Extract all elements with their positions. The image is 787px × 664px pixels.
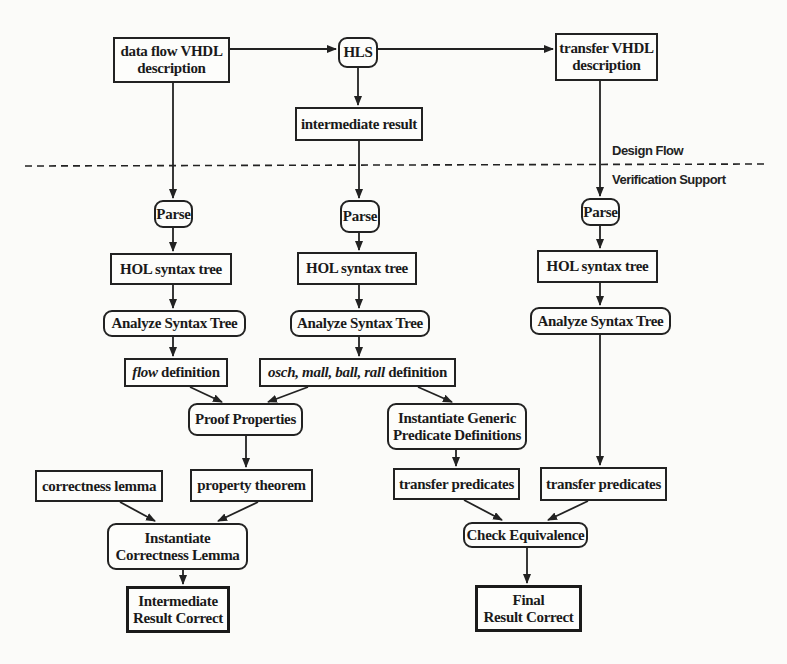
node-label: Analyze Syntax Tree: [112, 315, 238, 332]
intermediate-result-correct-node: IntermediateResult Correct: [126, 586, 230, 633]
node-label: Result Correct: [483, 609, 573, 626]
node-label: intermediate result: [301, 116, 417, 133]
node-label: Parse: [156, 206, 190, 223]
node-label-italic: osch, mall, ball, rall: [268, 364, 385, 380]
analyze-syntax-tree-mid-node: Analyze Syntax Tree: [290, 310, 430, 337]
node-label: definition: [158, 364, 220, 380]
node-label: HOL syntax tree: [306, 260, 408, 277]
node-label: Instantiate Generic: [398, 410, 516, 427]
node-label: Predicate Definitions: [393, 427, 521, 444]
node-label: Proof Properties: [195, 411, 296, 428]
node-label: Instantiate: [145, 530, 211, 547]
flow-definition-node: flow definition: [124, 358, 228, 387]
verification-support-label: Verification Support: [612, 172, 726, 187]
node-label: definition: [385, 364, 447, 380]
property-theorem-node: property theorem: [190, 469, 313, 502]
node-label: HOL syntax tree: [547, 258, 649, 275]
node-label: transfer predicates: [546, 476, 661, 493]
node-label: data flow VHDL: [120, 43, 222, 60]
node-label: Analyze Syntax Tree: [538, 313, 664, 330]
analyze-syntax-tree-left-node: Analyze Syntax Tree: [103, 310, 246, 337]
instantiate-generic-predicate-node: Instantiate GenericPredicate Definitions: [387, 403, 527, 450]
hol-syntax-tree-left-node: HOL syntax tree: [110, 253, 232, 285]
correctness-lemma-node: correctness lemma: [35, 470, 163, 502]
instantiate-correctness-lemma-node: InstantiateCorrectness Lemma: [107, 523, 248, 570]
design-flow-label: Design Flow: [612, 143, 683, 158]
node-label: Parse: [583, 204, 617, 221]
osch-mall-ball-rall-definition-node: osch, mall, ball, rall definition: [259, 358, 456, 387]
node-label: property theorem: [197, 477, 305, 494]
parse-right-node: Parse: [581, 198, 620, 226]
verification-flow-diagram: Design Flow Verification Support data fl…: [0, 0, 787, 664]
node-label: Correctness Lemma: [115, 547, 239, 564]
check-equivalence-node: Check Equivalence: [463, 522, 588, 548]
node-label: Check Equivalence: [467, 527, 585, 544]
transfer-vhdl-node: transfer VHDLdescription: [555, 33, 658, 81]
analyze-syntax-tree-right-node: Analyze Syntax Tree: [530, 307, 671, 335]
parse-mid-node: Parse: [340, 200, 380, 233]
node-label: HOL syntax tree: [120, 261, 222, 278]
node-label: HLS: [343, 44, 372, 61]
design-verification-divider: [25, 164, 765, 166]
node-label: Intermediate: [138, 593, 218, 610]
node-label: description: [137, 60, 205, 77]
node-label-italic: flow: [132, 364, 157, 380]
intermediate-result-node: intermediate result: [295, 107, 423, 141]
hol-syntax-tree-mid-node: HOL syntax tree: [297, 252, 417, 285]
final-result-correct-node: FinalResult Correct: [475, 585, 582, 632]
transfer-predicates-mid-node: transfer predicates: [393, 468, 520, 500]
node-label: transfer predicates: [399, 476, 514, 493]
node-label: correctness lemma: [42, 478, 156, 495]
node-label: transfer VHDL: [559, 40, 653, 57]
node-label: Parse: [343, 208, 377, 225]
transfer-predicates-right-node: transfer predicates: [540, 467, 667, 501]
parse-left-node: Parse: [154, 200, 193, 228]
hol-syntax-tree-right-node: HOL syntax tree: [537, 250, 658, 283]
node-label: description: [572, 57, 640, 74]
node-label: Final: [513, 592, 545, 609]
hls-node: HLS: [338, 37, 378, 68]
proof-properties-node: Proof Properties: [188, 403, 303, 436]
node-label: Analyze Syntax Tree: [297, 315, 423, 332]
dataflow-vhdl-node: data flow VHDLdescription: [113, 37, 230, 83]
node-label: Result Correct: [133, 610, 223, 627]
